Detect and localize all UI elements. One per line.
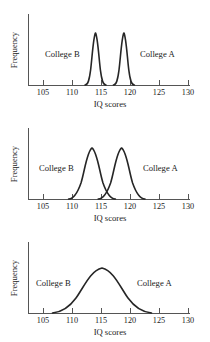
- series-label-college-a: College A: [143, 163, 178, 173]
- x-axis-title: IQ scores: [94, 213, 127, 223]
- chart-panel-2: 105 110 115 120 125 130 IQ scores Freque…: [0, 114, 210, 228]
- x-axis-title: IQ scores: [94, 327, 127, 337]
- chart-panel-1: 105 110 115 120 125 130 IQ scores Freque…: [0, 0, 210, 114]
- y-axis-title: Frequency: [9, 145, 19, 182]
- x-tick-label: 105: [37, 88, 49, 97]
- series-label-college-b: College B: [45, 49, 80, 59]
- x-tick-label: 110: [66, 88, 78, 97]
- x-tick-label: 125: [153, 202, 165, 211]
- x-tick-label: 130: [182, 202, 194, 211]
- distribution-curve-combined: [53, 268, 152, 313]
- x-tick-labels-1: 105 110 115 120 125 130: [37, 88, 194, 97]
- chart-svg-1: 105 110 115 120 125 130 IQ scores Freque…: [0, 0, 210, 114]
- y-axis-title: Frequency: [9, 259, 19, 296]
- x-tick-label: 115: [95, 316, 107, 325]
- x-tick-label: 125: [153, 316, 165, 325]
- x-tick-label: 130: [182, 88, 194, 97]
- distribution-curve-college-b: [85, 33, 106, 85]
- distribution-curve-college-a: [98, 148, 145, 199]
- x-tick-label: 110: [66, 202, 78, 211]
- series-label-college-a: College A: [137, 278, 172, 288]
- figure-page: 105 110 115 120 125 130 IQ scores Freque…: [0, 0, 210, 342]
- x-tick-label: 105: [37, 202, 49, 211]
- x-tick-label: 125: [153, 88, 165, 97]
- series-label-college-b: College B: [36, 278, 71, 288]
- x-tick-label: 110: [66, 316, 78, 325]
- x-tick-labels-3: 105 110 115 120 125 130: [37, 316, 194, 325]
- x-tick-label: 105: [37, 316, 49, 325]
- chart-svg-3: 105 110 115 120 125 130 IQ scores Freque…: [0, 228, 210, 342]
- x-tick-label: 115: [95, 88, 107, 97]
- series-label-college-b: College B: [39, 163, 74, 173]
- y-axis-title: Frequency: [9, 31, 19, 68]
- x-axis-title: IQ scores: [94, 99, 127, 109]
- x-tick-label: 120: [124, 316, 136, 325]
- distribution-curve-college-b: [69, 148, 116, 199]
- distribution-curve-college-a: [113, 33, 134, 85]
- chart-svg-2: 105 110 115 120 125 130 IQ scores Freque…: [0, 114, 210, 228]
- x-tick-label: 130: [182, 316, 194, 325]
- series-label-college-a: College A: [140, 49, 175, 59]
- chart-panel-3: 105 110 115 120 125 130 IQ scores Freque…: [0, 228, 210, 342]
- x-tick-label: 120: [124, 202, 136, 211]
- x-tick-label: 115: [95, 202, 107, 211]
- x-tick-labels-2: 105 110 115 120 125 130: [37, 202, 194, 211]
- x-tick-label: 120: [124, 88, 136, 97]
